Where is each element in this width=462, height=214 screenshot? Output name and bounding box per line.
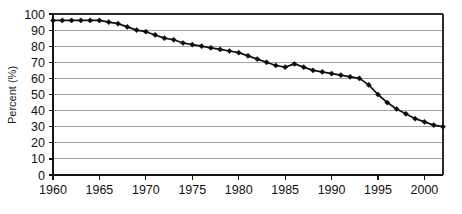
y-axis-label: Percent (%) xyxy=(6,66,18,124)
x-tick-label-2000: 2000 xyxy=(411,183,439,197)
x-tick-label-1990: 1990 xyxy=(318,183,346,197)
x-tick-label-1970: 1970 xyxy=(132,183,160,197)
x-tick-label-1995: 1995 xyxy=(364,183,392,197)
y-tick-label-70: 70 xyxy=(31,56,45,70)
y-tick-label-50: 50 xyxy=(31,88,45,102)
line-chart: 0102030405060708090100 19601965197019751… xyxy=(0,0,462,214)
x-tick-label-1980: 1980 xyxy=(225,183,253,197)
y-tick-label-10: 10 xyxy=(31,152,45,166)
y-tick-label-100: 100 xyxy=(24,8,45,22)
y-tick-label-20: 20 xyxy=(31,136,45,150)
y-tick-label-80: 80 xyxy=(31,40,45,54)
chart-container: 0102030405060708090100 19601965197019751… xyxy=(0,0,462,214)
y-tick-label-30: 30 xyxy=(31,120,45,134)
x-tick-label-1960: 1960 xyxy=(39,183,67,197)
y-tick-label-90: 90 xyxy=(31,24,45,38)
x-tick-label-1965: 1965 xyxy=(86,183,114,197)
x-tick-label-1975: 1975 xyxy=(178,183,206,197)
x-tick-label-1985: 1985 xyxy=(271,183,299,197)
y-tick-label-60: 60 xyxy=(31,72,45,86)
y-tick-label-40: 40 xyxy=(31,104,45,118)
y-tick-label-0: 0 xyxy=(38,169,45,183)
